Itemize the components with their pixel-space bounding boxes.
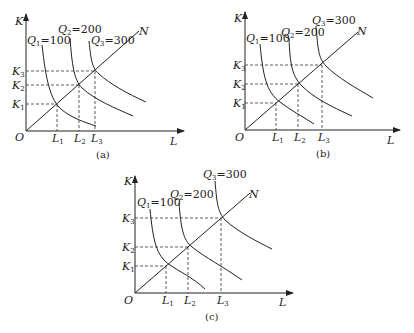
origin-label: O [124, 294, 133, 307]
panel-caption: (a) [96, 149, 110, 160]
svg-text:N: N [356, 25, 367, 38]
svg-text:Q2=200: Q2=200 [281, 26, 325, 40]
svg-text:K1: K1 [232, 97, 246, 111]
origin-label: O [235, 131, 244, 144]
svg-text:L3: L3 [317, 131, 330, 145]
isoquant-q2 [179, 203, 242, 280]
l-axis-label: L [278, 296, 286, 309]
expansion-ray-n [245, 32, 358, 130]
svg-text:L1: L1 [271, 131, 284, 145]
svg-text:N: N [138, 25, 149, 38]
isoquant-q1 [42, 45, 96, 126]
svg-text:K1: K1 [11, 98, 25, 112]
svg-text:Q1=100: Q1=100 [27, 34, 71, 48]
svg-text:K1: K1 [121, 260, 135, 274]
svg-text:K3: K3 [121, 212, 135, 226]
svg-text:L3: L3 [216, 294, 229, 308]
svg-text:L1: L1 [51, 132, 64, 146]
k-axis-label: K [123, 175, 133, 188]
svg-text:K2: K2 [232, 78, 246, 92]
ray-label: N [248, 188, 259, 201]
isoquant-q2 [289, 38, 352, 116]
panel-caption: (b) [316, 148, 330, 159]
svg-text:K: K [233, 12, 243, 25]
svg-text:L3: L3 [90, 132, 103, 146]
svg-text:O: O [235, 131, 244, 144]
panel-c: K L O N Q1=100 Q2=200 Q3=300 K1 K2 K3 L1… [121, 168, 293, 322]
diagram-canvas: K L O N Q1=100 Q2=200 Q3=300 K1 K2 K3 L1… [0, 0, 414, 333]
l-axis-label: L [386, 134, 394, 147]
origin-label: O [15, 131, 24, 144]
svg-text:L: L [278, 296, 286, 309]
svg-text:Q3=300: Q3=300 [312, 14, 356, 28]
svg-text:Q3=300: Q3=300 [203, 168, 247, 182]
panel-a: K L O N Q1=100 Q2=200 Q3=300 K1 K2 K3 L1… [11, 14, 184, 160]
svg-text:L: L [386, 134, 394, 147]
svg-text:L: L [169, 135, 177, 148]
svg-text:N: N [248, 188, 259, 201]
svg-text:L1: L1 [161, 294, 174, 308]
svg-text:K3: K3 [232, 59, 246, 73]
k-axis-label: K [14, 15, 24, 28]
svg-text:K2: K2 [11, 79, 25, 93]
svg-text:K: K [123, 175, 133, 188]
l-axis-label: L [169, 135, 177, 148]
panel-caption: (c) [205, 311, 219, 322]
k-axis-label: K [233, 12, 243, 25]
svg-text:Q3=300: Q3=300 [91, 34, 135, 48]
isoquant-q3 [215, 181, 272, 249]
returns-to-scale-figure: K L O N Q1=100 Q2=200 Q3=300 K1 K2 K3 L1… [0, 0, 414, 333]
svg-text:O: O [15, 131, 24, 144]
svg-text:L2: L2 [293, 131, 306, 145]
svg-text:L2: L2 [73, 132, 86, 146]
svg-text:K: K [14, 15, 24, 28]
isoquant-q2 [70, 38, 133, 116]
svg-text:Q2=200: Q2=200 [170, 188, 214, 202]
isoquant-q1 [150, 209, 205, 289]
panel-b: K L O N Q1=100 Q2=200 Q3=300 K1 K2 K3 L1… [232, 12, 400, 159]
svg-text:O: O [124, 294, 133, 307]
svg-text:K3: K3 [11, 65, 25, 79]
svg-text:L2: L2 [183, 294, 196, 308]
svg-text:K2: K2 [121, 241, 135, 255]
ray-label: N [356, 25, 367, 38]
ray-label: N [138, 25, 149, 38]
